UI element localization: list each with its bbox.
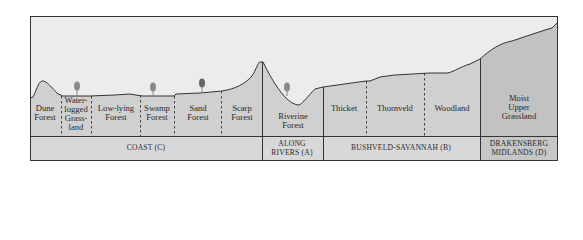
label-thicket: Thicket xyxy=(331,104,357,113)
region-drakensberg-midlands: DRAKENSBERG MIDLANDS (D) xyxy=(490,139,548,157)
label-dune-forest: Dune Forest xyxy=(34,104,55,122)
label-moist-upper-grassland: Moist Upper Grassland xyxy=(502,94,536,121)
region-bushveld-savannah: BUSHVELD-SAVANNAH (B) xyxy=(351,143,451,152)
label-woodland: Woodland xyxy=(434,104,469,113)
label-scarp-forest: Scarp Forest xyxy=(231,104,252,122)
label-riverine-forest: Riverine Forest xyxy=(278,112,308,130)
label-sand-forest: Sand Forest xyxy=(187,104,208,122)
label-waterlogged-grassland: Water- logged Grass- land xyxy=(64,96,87,132)
region-coast: COAST (C) xyxy=(127,143,166,152)
label-swamp-forest: Swamp Forest xyxy=(144,104,170,122)
label-low-lying-forest: Low-lying Forest xyxy=(98,104,134,122)
label-thornveld: Thornveld xyxy=(377,104,413,113)
region-along-rivers: ALONG RIVERS (A) xyxy=(271,139,312,157)
